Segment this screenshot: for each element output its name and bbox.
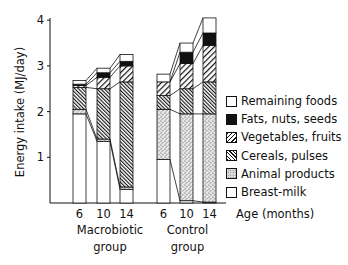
bars — [73, 18, 216, 203]
y-tick-label: 3 — [37, 59, 44, 73]
bar-segment — [73, 81, 86, 85]
bar-segment — [180, 89, 193, 114]
bar-segment — [157, 96, 170, 110]
x-axis-title: Age (months) — [236, 207, 314, 221]
legend-label: Cereals, pulses — [241, 147, 328, 165]
bar-macrobiotic-6 — [73, 81, 86, 203]
bar-segment — [97, 141, 110, 203]
group-label-line1: Control — [145, 223, 230, 237]
legend-item: Cereals, pulses — [226, 147, 342, 165]
legend-swatch-icon — [226, 96, 237, 107]
bar-segment — [157, 74, 170, 82]
legend-swatch-icon — [226, 114, 237, 125]
bar-segment — [97, 68, 110, 73]
bar-segment — [180, 114, 193, 201]
legend-label: Animal products — [241, 165, 335, 183]
bar-segment — [203, 114, 216, 202]
group-label-line2: group — [145, 240, 230, 254]
bar-segment — [97, 89, 110, 139]
legend-swatch-icon — [226, 187, 237, 198]
bar-segment — [203, 45, 216, 82]
bar-segment — [180, 52, 193, 63]
legend-item: Animal products — [226, 165, 342, 183]
x-tick-label: 10 — [96, 207, 111, 221]
legend: Remaining foodsFats, nuts, seedsVegetabl… — [226, 92, 342, 201]
bar-macrobiotic-10 — [97, 68, 110, 203]
x-tick-label: 10 — [179, 207, 194, 221]
x-tick-label: 14 — [119, 207, 134, 221]
bar-segment — [203, 33, 216, 45]
bar-segment — [120, 54, 133, 61]
bar-segment — [203, 82, 216, 114]
bar-segment — [180, 43, 193, 52]
x-tick-label: 14 — [202, 207, 217, 221]
group-label-control: Control group — [145, 223, 230, 254]
y-tick-label: 2 — [37, 105, 44, 119]
bar-segment — [120, 82, 133, 187]
bar-segment — [97, 77, 110, 88]
legend-item: Vegetables, fruits — [226, 128, 342, 146]
x-tick-label: 6 — [76, 207, 83, 221]
y-tick-label: 1 — [37, 150, 44, 164]
bar-segment — [157, 109, 170, 159]
legend-label: Breast-milk — [241, 183, 306, 201]
bar-segment — [73, 114, 86, 203]
bar-segment — [120, 189, 133, 203]
bar-control-14 — [203, 18, 216, 203]
legend-item: Fats, nuts, seeds — [226, 110, 342, 128]
legend-swatch-icon — [226, 168, 237, 179]
bar-control-10 — [180, 43, 193, 203]
bar-segment — [157, 160, 170, 203]
x-tick-label: 6 — [160, 207, 167, 221]
bar-segment — [120, 66, 133, 82]
bar-control-6 — [157, 74, 170, 203]
legend-label: Vegetables, fruits — [241, 128, 342, 146]
bar-segment — [203, 18, 216, 33]
legend-item: Remaining foods — [226, 92, 342, 110]
legend-swatch-icon — [226, 132, 237, 143]
y-axis-label: Energy intake (MJ/day) — [13, 47, 27, 177]
legend-label: Fats, nuts, seeds — [241, 110, 337, 128]
bar-segment — [120, 61, 133, 66]
legend-item: Breast-milk — [226, 183, 342, 201]
legend-swatch-icon — [226, 150, 237, 161]
y-tick-label: 4 — [37, 13, 44, 27]
bar-macrobiotic-14 — [120, 54, 133, 203]
bar-segment — [73, 87, 86, 109]
bar-segment — [73, 109, 86, 114]
bar-segment — [157, 82, 170, 96]
bar-segment — [97, 73, 110, 78]
bar-segment — [180, 64, 193, 89]
legend-label: Remaining foods — [241, 92, 337, 110]
